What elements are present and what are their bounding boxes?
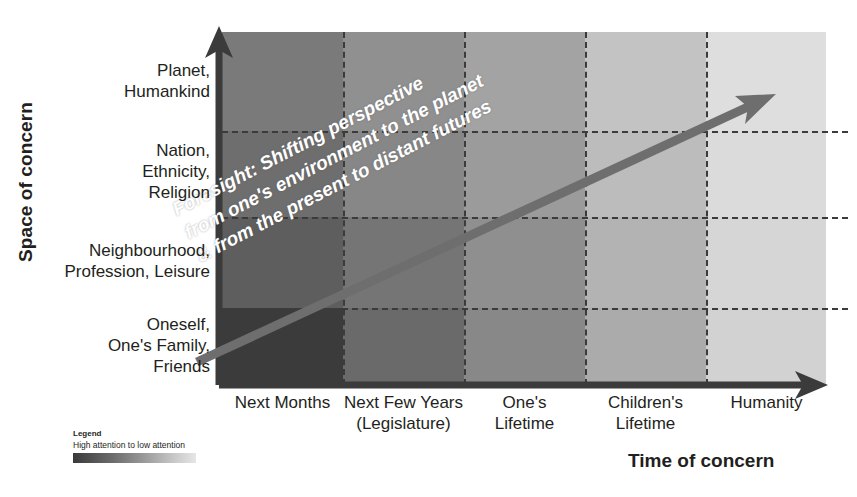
y-tick-line: Religion <box>20 182 210 203</box>
y-tick-line: Humankind <box>20 81 210 102</box>
matrix-cell <box>706 217 826 308</box>
x-axis-title: Time of concern <box>628 450 774 472</box>
matrix-cell <box>222 308 343 385</box>
grid-hline-3 <box>222 308 848 310</box>
y-axis-title: Space of concern <box>15 62 37 302</box>
matrix-cell <box>464 131 585 217</box>
y-tick-nation-ethnicity-religion: Nation,Ethnicity,Religion <box>20 140 210 203</box>
legend-gradient-bar <box>73 453 196 463</box>
x-tick-line: Lifetime <box>464 413 585 434</box>
x-tick-line: Children's <box>585 392 706 413</box>
matrix-cell <box>222 32 343 131</box>
x-tick-ones-lifetime: One'sLifetime <box>464 392 585 434</box>
y-tick-line: One's Family, <box>20 335 210 356</box>
y-tick-line: Neighbourhood, <box>20 240 210 261</box>
diagram-canvas: Foresight: Shifting perspective from one… <box>0 0 857 497</box>
y-tick-oneself-family-friends: Oneself,One's Family,Friends <box>20 314 210 377</box>
y-tick-line: Planet, <box>20 60 210 81</box>
matrix-cell <box>343 217 464 308</box>
grid-hline-2 <box>222 217 848 219</box>
matrix-cell <box>706 131 826 217</box>
x-tick-childrens-lifetime: Children'sLifetime <box>585 392 706 434</box>
x-tick-next-months: Next Months <box>222 392 343 413</box>
grid-vline-4 <box>706 32 708 385</box>
y-axis-tick-labels: Planet,Humankind Nation,Ethnicity,Religi… <box>12 0 210 400</box>
y-tick-line: Friends <box>20 356 210 377</box>
y-tick-line: Nation, <box>20 140 210 161</box>
x-tick-line: (Legislature) <box>343 413 464 434</box>
matrix-cell <box>706 308 826 385</box>
x-tick-line: Humanity <box>706 392 827 413</box>
x-tick-humanity: Humanity <box>706 392 827 413</box>
legend-subtitle: High attention to low attention <box>73 439 213 451</box>
y-tick-line: Ethnicity, <box>20 161 210 182</box>
y-tick-neighbourhood-profession-leisure: Neighbourhood,Profession, Leisure <box>20 240 210 282</box>
y-tick-line: Profession, Leisure <box>20 261 210 282</box>
matrix-cell <box>585 217 706 308</box>
legend-title: Legend <box>73 428 213 439</box>
matrix-cell <box>585 308 706 385</box>
y-tick-planet-humankind: Planet,Humankind <box>20 60 210 102</box>
grid-vline-1 <box>343 32 345 385</box>
matrix-cell <box>585 131 706 217</box>
x-tick-line: Next Few Years <box>343 392 464 413</box>
matrix-cell <box>464 308 585 385</box>
x-tick-next-few-years: Next Few Years(Legislature) <box>343 392 464 434</box>
matrix-cell <box>706 32 826 131</box>
legend: Legend High attention to low attention <box>73 428 213 463</box>
x-tick-line: Next Months <box>222 392 343 413</box>
matrix-cell <box>343 308 464 385</box>
y-tick-line: Oneself, <box>20 314 210 335</box>
x-tick-line: Lifetime <box>585 413 706 434</box>
x-tick-line: One's <box>464 392 585 413</box>
grid-vline-3 <box>585 32 587 385</box>
matrix-cell <box>464 217 585 308</box>
